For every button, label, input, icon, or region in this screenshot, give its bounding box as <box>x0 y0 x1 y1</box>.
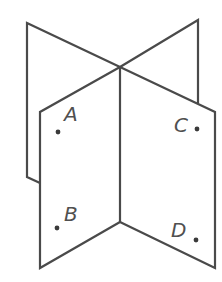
planes-drawing <box>0 0 222 282</box>
point-b <box>55 226 60 231</box>
intersecting-planes-diagram: A B C D <box>0 0 222 282</box>
point-c <box>195 127 200 132</box>
label-b: B <box>64 204 78 224</box>
front-plane-right-wing <box>120 67 215 268</box>
label-d: D <box>171 220 186 240</box>
point-a <box>56 130 61 135</box>
front-plane-left-wing <box>40 67 120 268</box>
label-c: C <box>174 115 188 135</box>
point-d <box>194 238 199 243</box>
label-a: A <box>64 104 78 124</box>
back-plane-right-edge <box>120 20 198 103</box>
